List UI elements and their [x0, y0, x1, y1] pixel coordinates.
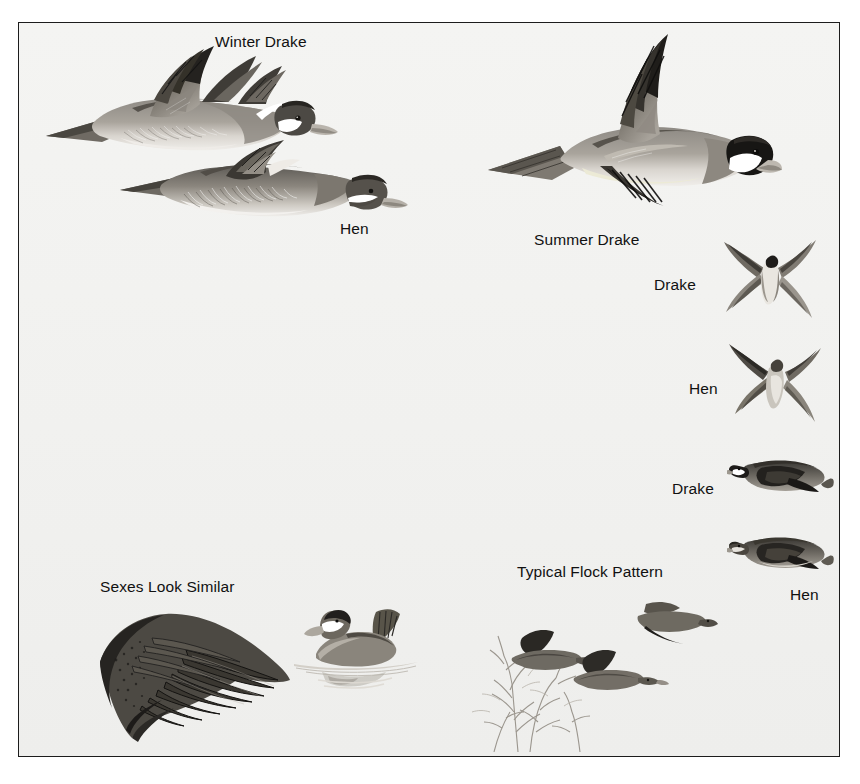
figure-hen-overhead [727, 340, 825, 428]
label-sexes-look-similar: Sexes Look Similar [100, 579, 234, 595]
figure-hen-flight [118, 140, 408, 232]
label-hen-flight-left: Hen [340, 221, 369, 237]
label-typical-flock-pattern: Typical Flock Pattern [517, 564, 663, 580]
figure-flock [460, 580, 720, 752]
figure-drake-overhead [720, 236, 820, 326]
flock-bird-3 [638, 602, 719, 644]
label-drake-side: Drake [672, 481, 714, 497]
label-winter-drake: Winter Drake [215, 34, 307, 50]
flock-bird-2 [574, 650, 669, 690]
label-drake-overhead: Drake [654, 277, 696, 293]
label-hen-overhead: Hen [689, 381, 718, 397]
figure-summer-drake [482, 28, 782, 226]
figure-wing-detail [82, 598, 308, 746]
waterfowl-identification-plate: Winter Drake [0, 0, 860, 784]
figure-hen-side [727, 527, 835, 589]
label-hen-side: Hen [790, 587, 819, 603]
label-summer-drake: Summer Drake [534, 232, 639, 248]
figure-swimming-duck [292, 592, 420, 700]
figure-drake-side [727, 450, 835, 512]
